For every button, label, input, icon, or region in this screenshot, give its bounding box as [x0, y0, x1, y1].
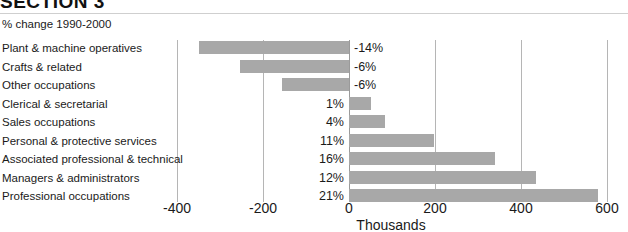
bar-value-label: -14%	[354, 41, 383, 55]
bar[interactable]	[349, 134, 434, 147]
bar-value-label: 4%	[326, 115, 344, 129]
bar-value-label: -6%	[354, 60, 376, 74]
bar-value-label: -6%	[354, 78, 376, 92]
bar[interactable]	[349, 115, 385, 128]
category-label: Managers & administrators	[2, 171, 139, 185]
bar-row: Clerical & secretarial1%	[0, 95, 628, 114]
bar-value-label: 11%	[320, 134, 344, 148]
bar[interactable]	[349, 171, 536, 184]
x-tick-label: -200	[249, 200, 277, 216]
category-label: Sales occupations	[2, 115, 95, 129]
bar-row: Plant & machine operatives-14%	[0, 39, 628, 58]
x-tick-label: 600	[595, 200, 618, 216]
bar-value-label: 12%	[319, 171, 344, 185]
bar-row: Sales occupations4%	[0, 113, 628, 132]
category-label: Crafts & related	[2, 60, 82, 74]
category-label: Personal & protective services	[2, 134, 157, 148]
category-label: Associated professional & technical	[2, 152, 183, 166]
bar-row: Associated professional & technical16%	[0, 150, 628, 169]
bar[interactable]	[240, 60, 349, 73]
chart-subtitle: % change 1990-2000	[2, 18, 111, 30]
header-divider	[0, 13, 628, 14]
page-bleed-artifact	[0, 225, 628, 232]
chart-page: SECTION 3 % change 1990-2000 Plant & mac…	[0, 0, 628, 232]
bar-row: Other occupations-6%	[0, 76, 628, 95]
bar-row: Crafts & related-6%	[0, 58, 628, 77]
category-label: Clerical & secretarial	[2, 97, 107, 111]
x-tick-label: 200	[423, 200, 446, 216]
bar[interactable]	[199, 41, 350, 54]
bar-value-label: 16%	[319, 152, 344, 166]
x-tick-label: -400	[163, 200, 191, 216]
plot-area: Plant & machine operatives-14%Crafts & r…	[0, 36, 628, 204]
bar[interactable]	[349, 152, 495, 165]
bar[interactable]	[282, 78, 349, 91]
bar-row: Managers & administrators12%	[0, 169, 628, 188]
category-label: Other occupations	[2, 78, 95, 92]
bar-rows: Plant & machine operatives-14%Crafts & r…	[0, 36, 628, 204]
bar-value-label: 1%	[326, 97, 344, 111]
section-title: SECTION 3	[0, 0, 105, 13]
x-tick-label: 0	[345, 200, 353, 216]
bar-row: Personal & protective services11%	[0, 132, 628, 151]
category-label: Plant & machine operatives	[2, 41, 142, 55]
x-tick-label: 400	[509, 200, 532, 216]
bar[interactable]	[349, 97, 371, 110]
